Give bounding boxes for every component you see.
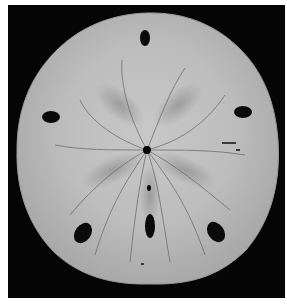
lunule-bottom-center bbox=[145, 214, 155, 238]
sand-dollar-photo bbox=[0, 0, 287, 306]
lunule-left bbox=[42, 111, 60, 123]
lunule-top bbox=[140, 30, 150, 46]
anal-pore bbox=[147, 185, 151, 191]
lunule-right bbox=[234, 106, 252, 118]
center-hole bbox=[143, 146, 151, 154]
